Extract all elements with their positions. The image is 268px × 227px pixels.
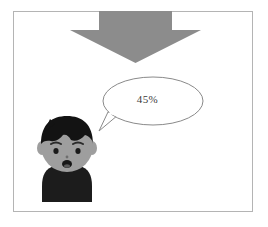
boy-eye-right	[75, 148, 80, 154]
illustration-scene: 45%	[0, 0, 268, 227]
cartoon-boy	[33, 110, 101, 205]
down-arrow-shape	[70, 11, 201, 63]
boy-eye-left	[53, 148, 58, 154]
speech-bubble-text: 45%	[96, 93, 199, 105]
boy-nose	[66, 156, 69, 159]
boy-tongue	[64, 164, 70, 168]
down-arrow	[70, 11, 201, 63]
